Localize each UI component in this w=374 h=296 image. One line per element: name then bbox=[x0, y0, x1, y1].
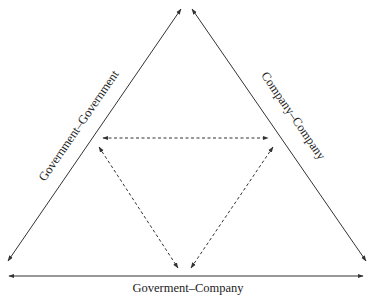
triangle-diagram: Government–Government Company–Company Go… bbox=[0, 0, 374, 296]
inner-left-dashed-arrow bbox=[99, 147, 178, 268]
right-edge-arrow bbox=[192, 9, 366, 261]
label-company-company: Company–Company bbox=[258, 69, 329, 163]
label-government-government: Government–Government bbox=[36, 67, 122, 184]
inner-right-dashed-arrow bbox=[191, 147, 273, 268]
left-edge-arrow bbox=[8, 9, 181, 261]
label-goverment-company: Goverment–Company bbox=[132, 281, 244, 295]
